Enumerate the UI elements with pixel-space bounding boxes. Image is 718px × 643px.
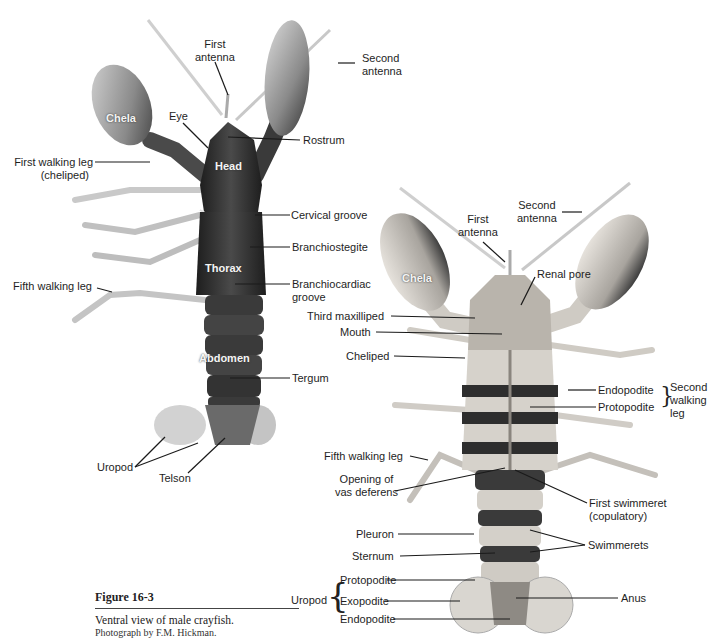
figure-credit: Photograph by F.M. Hickman. (95, 627, 299, 638)
figure-number: Figure 16-3 (95, 590, 299, 609)
cheliped-label: Cheliped (346, 350, 389, 363)
protopodite-label: Protopodite (598, 401, 654, 414)
dorsal-eye-label: Eye (169, 110, 188, 123)
figure-description: Ventral view of male crayfish. (95, 614, 299, 626)
dorsal-chela-label: Chela (106, 112, 136, 124)
swimmerets-label: Swimmerets (588, 539, 649, 552)
third-maxilliped-label: Third maxilliped (307, 310, 384, 323)
pleuron-label: Pleuron (356, 528, 394, 541)
dorsal-uropod-label: Uropod (97, 461, 133, 474)
tergum-label: Tergum (292, 372, 329, 385)
dorsal-first-walking-leg-label: First walking leg (cheliped) (8, 156, 93, 182)
dorsal-first-antenna-label: First antenna (195, 38, 235, 64)
second-walking-leg-label: Second walking leg (670, 381, 707, 420)
ventral-fifth-walking-leg-label: Fifth walking leg (324, 450, 403, 463)
dorsal-head-label: Head (215, 160, 242, 172)
cervical-groove-label: Cervical groove (291, 209, 367, 222)
uropod-protopodite-label: Protopodite (340, 574, 396, 587)
first-swimmeret-label: First swimmeret (copulatory) (589, 497, 667, 523)
telson-label: Telson (159, 472, 191, 485)
ventral-second-antenna-label: Second antenna (517, 199, 557, 225)
dorsal-second-antenna-label: Second antenna (362, 52, 402, 78)
uropod-exopodite-label: Exopodite (340, 595, 389, 608)
uropod-endopodite-label: Endopodite (340, 613, 396, 626)
dorsal-thorax-label: Thorax (205, 262, 242, 274)
sternum-label: Sternum (352, 550, 394, 563)
ventral-chela-label: Chela (402, 272, 432, 284)
ventral-first-antenna-label: First antenna (458, 213, 498, 239)
dorsal-rostrum-label: Rostrum (303, 134, 345, 147)
anus-label: Anus (621, 592, 646, 605)
dorsal-abdomen-label: Abdomen (199, 352, 250, 364)
branchiostegite-label: Branchiostegite (292, 241, 368, 254)
mouth-label: Mouth (340, 326, 371, 339)
figure-caption: Figure 16-3 Ventral view of male crayfis… (95, 590, 299, 638)
dorsal-fifth-walking-leg-label: Fifth walking leg (13, 280, 92, 293)
opening-vas-deferens-label: Opening of vas deferens (335, 473, 398, 499)
branchiocardiac-groove-label: Branchiocardiac groove (292, 278, 371, 304)
endopodite-label: Endopodite (598, 384, 654, 397)
renal-pore-label: Renal pore (537, 268, 591, 281)
